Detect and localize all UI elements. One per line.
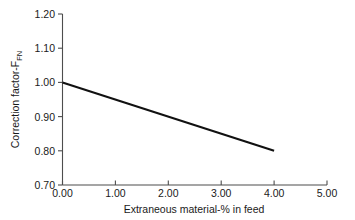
x-tick-label: 1.00 [105,187,126,199]
y-tick-label: 1.00 [35,76,56,88]
x-tick-label: 2.00 [158,187,179,199]
chart-canvas: 1.20 1.10 1.00 0.90 0.80 0.70 Correction… [0,0,355,220]
y-tick-label: 1.10 [35,42,56,54]
x-tick-label: 3.00 [211,187,232,199]
x-tick-label: 5.00 [317,187,338,199]
y-tick-label: 0.80 [35,145,56,157]
x-tick-label: 0.00 [52,187,73,199]
chart-figure: 1.20 1.10 1.00 0.90 0.80 0.70 Correction… [0,0,355,220]
x-tick-label: 4.00 [264,187,285,199]
y-tick-label: 1.20 [35,8,56,20]
x-axis-title: Extraneous material-% in feed [124,203,265,215]
y-axis-title-subscript: FN [15,51,24,61]
y-axis-title-main: Correction factor-F [9,61,21,149]
y-tick-label: 0.90 [35,111,56,123]
